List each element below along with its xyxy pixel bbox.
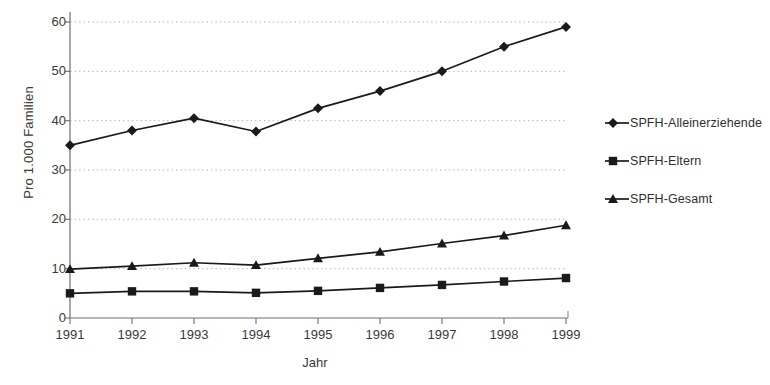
legend-item[interactable]: SPFH-Alleinerziehende [604,104,770,142]
diamond-marker-icon [189,113,199,123]
x-tick-label: 1999 [536,327,596,342]
line-chart: Pro 1.000 Familien 0102030405060 1991199… [0,0,770,385]
triangle-marker-icon [561,220,571,229]
series-line [70,27,566,145]
series-line [70,225,566,269]
legend-item[interactable]: SPFH-Eltern [604,142,770,180]
square-marker-icon [438,281,446,289]
diamond-marker-icon [499,42,509,52]
square-marker-icon [604,153,630,169]
square-marker-icon [314,287,322,295]
x-tick-label: 1992 [102,327,162,342]
x-tick-label: 1991 [40,327,100,342]
chart-legend: SPFH-AlleinerziehendeSPFH-ElternSPFH-Ges… [604,104,770,218]
x-tick-label: 1998 [474,327,534,342]
x-tick-label: 1993 [164,327,224,342]
diamond-marker-icon [375,86,385,96]
diamond-marker-icon [437,66,447,76]
legend-item-label: SPFH-Alleinerziehende [630,116,762,130]
diamond-marker-icon [313,103,323,113]
square-marker-icon [252,289,260,297]
square-marker-icon [562,274,570,282]
diamond-marker-icon [65,140,75,150]
square-marker-icon [500,277,508,285]
triangle-marker-icon [604,191,630,207]
x-tick-label: 1994 [226,327,286,342]
diamond-marker-icon [127,126,137,136]
square-marker-icon [128,287,136,295]
square-marker-icon [376,284,384,292]
x-axis-title: Jahr [60,355,570,370]
legend-item-label: SPFH-Eltern [630,154,701,168]
diamond-marker-icon [251,127,261,137]
x-tick-label: 1997 [412,327,472,342]
x-tick-label: 1995 [288,327,348,342]
square-marker-icon [190,287,198,295]
square-marker-icon [66,289,74,297]
legend-item-label: SPFH-Gesamt [630,192,712,206]
diamond-marker-icon [561,22,571,32]
legend-item[interactable]: SPFH-Gesamt [604,180,770,218]
x-tick-label: 1996 [350,327,410,342]
square-marker-icon [609,157,617,165]
diamond-marker-icon [604,115,630,131]
diamond-marker-icon [608,118,618,128]
